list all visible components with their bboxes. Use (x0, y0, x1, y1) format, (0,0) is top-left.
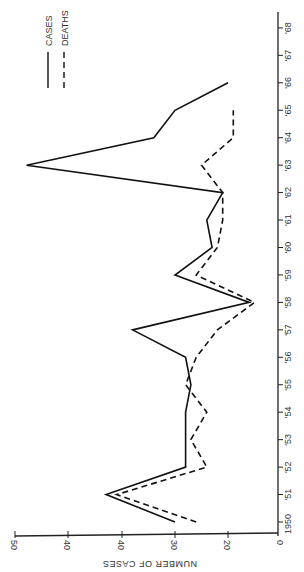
value-tick-label: 0 (275, 540, 285, 545)
axes: 1950'51'52'53'54'55'56'57'58'59'60'61'62… (9, 12, 293, 550)
value-tick-label: 30 (169, 540, 179, 550)
year-tick-label: '55 (283, 379, 293, 391)
year-tick-label: '65 (283, 105, 293, 117)
year-tick-label: '61 (283, 214, 293, 226)
legend-label-cases: CASES (44, 15, 54, 46)
value-axis-title: NUMBER OF CASES (102, 559, 197, 569)
value-tick-label: 40 (62, 540, 72, 550)
year-tick-label: '53 (283, 434, 293, 446)
year-tick-label: '54 (283, 406, 293, 418)
value-axis-line (15, 533, 278, 536)
year-tick-label: '68 (283, 22, 293, 34)
value-tick-label: 50 (9, 540, 19, 550)
year-tick-label: '66 (283, 77, 293, 89)
legend-label-deaths: DEATHS (60, 10, 70, 46)
year-tick-label: '56 (283, 352, 293, 364)
year-tick-label: '52 (283, 461, 293, 473)
year-ticks: 1950'51'52'53'54'55'56'57'58'59'60'61'62… (278, 22, 293, 534)
legend: CASES DEATHS (44, 10, 70, 88)
year-tick-label: '62 (283, 187, 293, 199)
year-tick-label: '60 (283, 242, 293, 254)
value-tick-label: 20 (222, 540, 232, 550)
cases-series-line (27, 83, 250, 522)
year-tick-label: '63 (283, 159, 293, 171)
year-tick-label: '57 (283, 324, 293, 336)
year-tick-label: '67 (283, 50, 293, 62)
year-tick-label: '58 (283, 297, 293, 309)
line-chart: 1950'51'52'53'54'55'56'57'58'59'60'61'62… (0, 0, 304, 572)
year-tick-label: 1950 (283, 514, 293, 534)
year-tick-label: '64 (283, 132, 293, 144)
year-tick-label: '51 (283, 489, 293, 501)
value-tick-label: 40 (116, 540, 126, 550)
year-tick-label: '59 (283, 269, 293, 281)
legend-item-deaths: DEATHS (60, 10, 70, 88)
legend-item-cases: CASES (44, 15, 54, 88)
